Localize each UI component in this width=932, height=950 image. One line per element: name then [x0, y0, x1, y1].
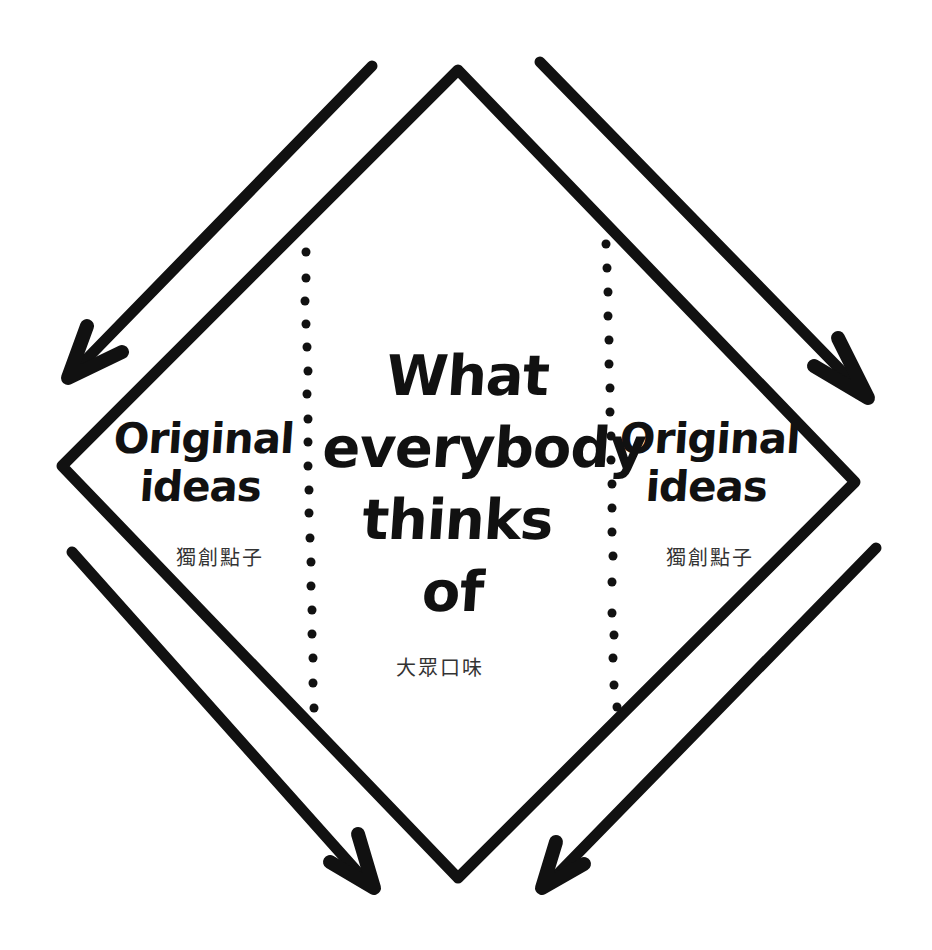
right-title-line-2: ideas [615, 466, 798, 508]
center-title-line-1: What [325, 340, 610, 412]
left-dotted-divider [301, 248, 319, 713]
right-region-subtitle: 獨創點子 [640, 542, 780, 571]
center-region-subtitle: 大眾口味 [370, 652, 510, 681]
left-region-subtitle: 獨創點子 [150, 542, 290, 571]
left-title-line-2: ideas [109, 466, 292, 508]
bottom-right-arrow-icon [542, 548, 876, 888]
diagram-canvas: Original ideas 獨創點子 What everybody think… [0, 0, 932, 950]
top-left-arrow-icon [68, 66, 372, 378]
center-title-line-2: everybody [320, 412, 605, 484]
center-title-line-3: thinks [315, 484, 600, 556]
left-region-title: Original ideas [109, 418, 295, 508]
center-region-title: What everybody thinks of [310, 340, 610, 628]
left-title-line-1: Original [112, 418, 295, 460]
right-region-title: Original ideas [615, 418, 801, 508]
center-title-line-4: of [310, 556, 595, 628]
right-title-line-1: Original [618, 418, 801, 460]
